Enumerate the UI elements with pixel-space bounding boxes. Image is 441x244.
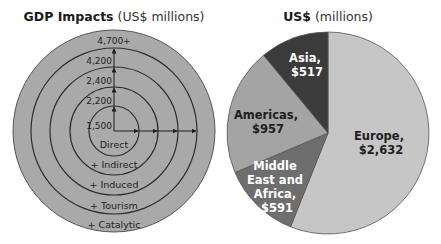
value-induced: 2,400	[86, 76, 112, 86]
tier-catalytic: + Catalytic	[88, 219, 141, 230]
value-tourism: 4,200	[86, 56, 112, 66]
tier-direct: Direct	[100, 139, 129, 150]
value-indirect: 2,200	[86, 96, 112, 106]
tier-indirect: + Indirect	[91, 159, 138, 170]
gdp-concentric-diagram: 1,500 2,200 2,400 4,200 4,700+ Direct + …	[13, 30, 215, 232]
tier-tourism: + Tourism	[90, 200, 138, 211]
regional-pie-chart: Europe, $2,632 Middle East and Africa, $…	[227, 32, 429, 234]
value-direct: 1,500	[86, 121, 112, 131]
label-europe: Europe, $2,632	[354, 129, 408, 157]
tier-induced: + Induced	[90, 179, 139, 190]
value-catalytic: 4,700+	[97, 36, 130, 46]
label-asia: Asia, $517	[289, 51, 325, 79]
charts-canvas: 1,500 2,200 2,400 4,200 4,700+ Direct + …	[0, 0, 441, 244]
